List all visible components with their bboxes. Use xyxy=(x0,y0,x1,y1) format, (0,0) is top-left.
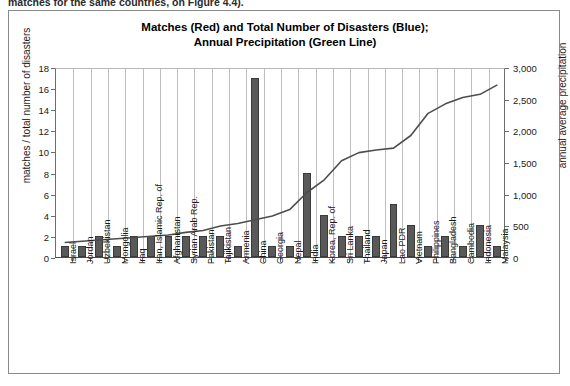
y-axis-tick-label-left: 4 xyxy=(19,210,49,221)
y-axis-label-right: annual average precipitation xyxy=(557,0,568,216)
x-axis-tick-label: Vietnam xyxy=(414,231,424,264)
x-axis-tick-label: Lao PDR xyxy=(397,227,407,264)
x-axis-tick-label: Thailand xyxy=(362,229,372,264)
x-axis-tick-label: Tajikistan xyxy=(223,227,233,264)
plot-wrapper: matches / total number of disasters annu… xyxy=(0,0,570,386)
y-axis-tick-label-left: 10 xyxy=(19,147,49,158)
x-axis-tick-label: Nepal xyxy=(293,240,303,264)
x-axis-tick-label: Iran, Islamic Rep. of xyxy=(154,184,164,264)
x-axis-tick-label: Armenia xyxy=(241,230,251,264)
x-axis-tick-label: China xyxy=(258,240,268,264)
x-axis-tick-label: Israel xyxy=(68,242,78,264)
y-axis-tick-label-right: 1,000 xyxy=(513,189,553,200)
x-axis-tick-label: Syrian Arab Rep. xyxy=(189,196,199,264)
x-axis-tick-label: Bangladesh xyxy=(448,216,458,264)
x-axis-tick-label: Uzbekistan xyxy=(102,219,112,264)
precipitation-line xyxy=(65,85,498,243)
figure-root: matches for the same countries, on Figur… xyxy=(0,0,570,386)
y-axis-tick-label-left: 6 xyxy=(19,189,49,200)
x-axis-tick-label: Indonesia xyxy=(483,225,493,264)
x-axis-tick-label: India xyxy=(310,244,320,264)
x-axis-tick-label: Sri Lanka xyxy=(345,226,355,264)
y-axis-tick-label-left: 8 xyxy=(19,168,49,179)
x-axis-tick-label: Iraq xyxy=(137,248,147,264)
y-axis-tick-label-left: 0 xyxy=(19,253,49,264)
y-axis-tick-label-left: 2 xyxy=(19,231,49,242)
y-axis-tick-mark-left xyxy=(51,258,55,259)
x-axis-tick-label: Pakistan xyxy=(206,229,216,264)
y-axis-tick-label-right: 2,500 xyxy=(513,94,553,105)
x-axis-tick-label: Jordan xyxy=(85,236,95,264)
x-axis-tick-label: Afghanistan xyxy=(172,216,182,264)
y-axis-tick-label-left: 12 xyxy=(19,126,49,137)
y-axis-tick-label-right: 1,500 xyxy=(513,158,553,169)
y-axis-tick-label-left: 14 xyxy=(19,105,49,116)
x-axis-tick-label: Malaysia xyxy=(500,228,510,264)
x-axis-tick-label: Korea, Rep. of xyxy=(327,206,337,264)
y-axis-tick-label-right: 2,000 xyxy=(513,126,553,137)
y-axis-tick-label-left: 16 xyxy=(19,84,49,95)
x-axis-tick-label: Mongolia xyxy=(120,227,130,264)
x-axis-tick-label: Philippines xyxy=(431,220,441,264)
y-axis-tick-label-right: 500 xyxy=(513,221,553,232)
y-axis-tick-label-left: 18 xyxy=(19,63,49,74)
y-axis-tick-label-right: 3,000 xyxy=(513,63,553,74)
x-axis-tick-label: Georgia xyxy=(275,232,285,264)
x-axis-tick-label: Japan xyxy=(379,239,389,264)
x-axis-tick-label: Cambodia xyxy=(466,223,476,264)
y-axis-tick-label-right: 0 xyxy=(513,253,553,264)
